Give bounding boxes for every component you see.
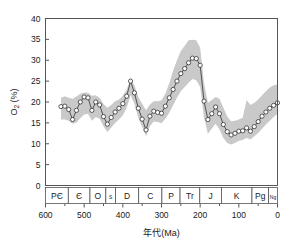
- data-point-marker: [248, 129, 252, 133]
- chart-canvas: 05101520253035406005004003002001000PЄЄOS…: [0, 0, 292, 249]
- x-axis-tick-label: 600: [38, 210, 52, 220]
- data-point-marker: [206, 117, 210, 121]
- data-point-marker: [260, 114, 264, 118]
- data-point-marker: [128, 79, 132, 83]
- period-label-pg: Pg: [255, 191, 266, 201]
- period-label-k: K: [234, 191, 240, 201]
- data-point-marker: [140, 117, 144, 121]
- period-label-ng: Ng: [270, 194, 277, 200]
- y-axis-tick-label: 20: [31, 97, 41, 107]
- x-axis-tick-label: 400: [116, 210, 130, 220]
- data-point-marker: [217, 112, 221, 116]
- period-label-o: O: [95, 191, 102, 201]
- data-point-marker: [175, 79, 179, 83]
- data-point-marker: [117, 106, 121, 110]
- data-point-marker: [86, 96, 90, 100]
- period-label-tr: Tr: [186, 191, 194, 201]
- x-axis-title: 年代(Ma): [143, 227, 180, 238]
- y-axis-tick-label: 30: [31, 55, 41, 65]
- data-point-marker: [90, 108, 94, 112]
- data-point-marker: [74, 108, 78, 112]
- data-point-marker: [67, 107, 71, 111]
- data-point-marker: [194, 56, 198, 60]
- data-point-marker: [163, 104, 167, 108]
- data-point-marker: [148, 114, 152, 118]
- period-label-p: P: [168, 191, 174, 201]
- x-axis-tick-label: 200: [193, 210, 207, 220]
- data-point-marker: [183, 67, 187, 71]
- y-axis-tick-label: 35: [31, 34, 41, 44]
- data-point-marker: [109, 115, 113, 119]
- data-point-marker: [167, 96, 171, 100]
- data-point-marker: [132, 91, 136, 95]
- data-point-marker: [78, 100, 82, 104]
- x-axis-tick-label: 300: [154, 210, 168, 220]
- data-point-marker: [252, 125, 256, 129]
- y-axis-title: O2 (%): [9, 88, 20, 115]
- y-axis-tick-label: 40: [31, 14, 41, 24]
- data-point-marker: [198, 63, 202, 67]
- data-point-marker: [125, 94, 129, 98]
- data-point-marker: [256, 120, 260, 124]
- y-axis-tick-label: 5: [36, 160, 41, 170]
- y-axis-tick-label: 10: [31, 139, 41, 149]
- data-point-marker: [63, 104, 67, 108]
- data-point-marker: [241, 129, 245, 133]
- data-point-marker: [272, 103, 276, 107]
- data-point-marker: [202, 99, 206, 103]
- data-point-marker: [171, 87, 175, 91]
- data-point-marker: [70, 117, 74, 121]
- data-point-marker: [268, 106, 272, 110]
- data-point-marker: [98, 103, 102, 107]
- period-label-є: Є: [76, 191, 82, 201]
- data-point-marker: [221, 122, 225, 126]
- data-point-marker: [179, 72, 183, 76]
- data-point-marker: [214, 105, 218, 109]
- y-axis-tick-label: 0: [36, 181, 41, 191]
- period-label-c: C: [147, 191, 153, 201]
- period-label-pє: PЄ: [51, 191, 63, 201]
- oxygen-phanerozoic-chart: 05101520253035406005004003002001000PЄЄOS…: [0, 0, 292, 249]
- data-point-marker: [225, 130, 229, 134]
- y-axis-tick-label: 15: [31, 118, 41, 128]
- data-point-marker: [94, 100, 98, 104]
- data-point-marker: [136, 106, 140, 110]
- data-point-marker: [186, 61, 190, 65]
- data-point-marker: [264, 110, 268, 114]
- x-axis-tick-label: 500: [77, 210, 91, 220]
- data-point-marker: [244, 126, 248, 130]
- x-axis-tick-label: 0: [275, 210, 280, 220]
- data-point-marker: [113, 110, 117, 114]
- x-axis-tick-label: 100: [232, 210, 246, 220]
- data-point-marker: [210, 112, 214, 116]
- data-point-marker: [101, 115, 105, 119]
- period-label-j: J: [208, 191, 212, 201]
- data-point-marker: [121, 102, 125, 106]
- y-axis-tick-label: 25: [31, 76, 41, 86]
- data-point-marker: [144, 128, 148, 132]
- period-label-d: D: [124, 191, 130, 201]
- data-point-marker: [105, 122, 109, 126]
- data-point-marker: [159, 111, 163, 115]
